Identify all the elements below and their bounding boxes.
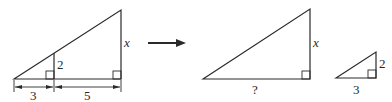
arrowhead-icon bbox=[113, 85, 120, 89]
arrowhead-icon bbox=[55, 85, 62, 89]
label-height-x: x bbox=[312, 35, 319, 50]
right-angle-mark bbox=[368, 70, 376, 78]
label-large-height: x bbox=[123, 35, 130, 50]
label-height-2: 2 bbox=[379, 56, 386, 71]
left-figure: 3 5 2 x bbox=[14, 10, 130, 102]
arrowhead-icon bbox=[46, 85, 53, 89]
arrow-right-icon bbox=[176, 39, 186, 47]
label-small-height: 2 bbox=[57, 57, 64, 72]
label-small-base: 3 bbox=[30, 88, 37, 102]
small-triangle-shape bbox=[336, 52, 376, 78]
label-base-unknown: ? bbox=[252, 82, 258, 97]
similar-triangles-diagram: 3 5 2 x x ? 2 3 bbox=[0, 0, 392, 102]
transition-arrow bbox=[148, 39, 186, 47]
large-right-triangle bbox=[14, 10, 121, 79]
right-angle-mark-inner bbox=[46, 71, 54, 79]
label-base-extension: 5 bbox=[84, 88, 91, 102]
right-angle-mark bbox=[302, 71, 310, 79]
large-triangle: x ? bbox=[203, 9, 319, 97]
label-base-3: 3 bbox=[353, 82, 360, 97]
small-triangle: 2 3 bbox=[336, 52, 386, 97]
large-triangle-shape bbox=[203, 9, 310, 79]
right-angle-mark-outer bbox=[113, 71, 121, 79]
arrowhead-icon bbox=[15, 85, 22, 89]
